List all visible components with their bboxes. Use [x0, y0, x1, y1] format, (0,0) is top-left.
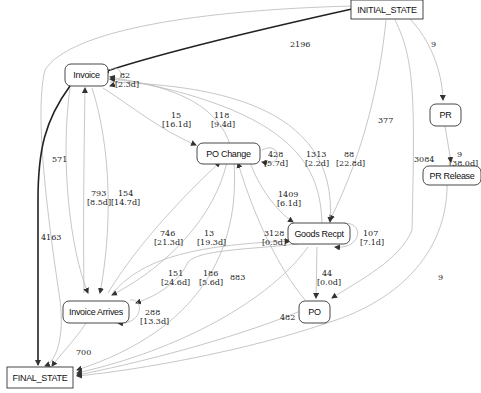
node-pr[interactable]: PR [430, 104, 461, 126]
label-883: 883 [230, 273, 245, 282]
node-invoice-arrives-label: Invoice Arrives [69, 307, 124, 317]
label-2196: 2196 [290, 40, 310, 49]
label-428-duration: [5.7d] [264, 159, 288, 168]
edge-invoice-final[interactable] [38, 86, 70, 365]
label-186-duration: [5.6d] [199, 278, 223, 287]
label-3128: 3128 [264, 229, 284, 238]
label-9-initial-pr: 9 [431, 40, 436, 49]
label-1313: 1313 [306, 150, 326, 159]
label-15-duration: [16.1d] [162, 120, 191, 129]
label-88-duration: [22.8d] [336, 159, 365, 168]
label-154: 154 [118, 189, 133, 198]
label-700: 700 [76, 348, 91, 357]
label-13-duration: [19.3d] [197, 238, 226, 247]
edge-goods-po-44[interactable] [316, 247, 317, 298]
label-88: 88 [344, 150, 354, 159]
node-po-label: PO [308, 307, 321, 317]
label-107: 107 [363, 229, 378, 238]
label-82-duration: [2.3d] [115, 80, 139, 89]
label-793-duration: [8.5d] [87, 198, 111, 207]
node-initial-state-label: INITIAL_STATE [357, 5, 417, 15]
edge-arrives-final-700[interactable] [52, 323, 86, 366]
label-118: 118 [214, 111, 229, 120]
label-118-duration: [9.4d] [211, 120, 235, 129]
label-746-duration: [21.3d] [154, 238, 183, 247]
label-4163: 4163 [41, 233, 61, 242]
label-186: 186 [203, 269, 218, 278]
label-1409-duration: [6.1d] [277, 199, 301, 208]
node-po-change[interactable]: PO Change [197, 143, 260, 164]
label-151-duration: [24.6d] [161, 278, 190, 287]
label-3084: 3084 [414, 155, 434, 164]
node-pr-label: PR [440, 110, 453, 120]
edge-initial-invoice[interactable] [104, 9, 352, 72]
node-goods-recpt[interactable]: Goods Recpt [288, 223, 350, 244]
edge-pr-prrelease[interactable] [445, 126, 451, 162]
node-pr-release[interactable]: PR Release [423, 166, 481, 185]
label-9-bottom: 9 [438, 273, 443, 282]
edge-invoice-pochange-15[interactable] [103, 88, 196, 145]
node-po-change-label: PO Change [206, 149, 251, 159]
label-377: 377 [378, 116, 393, 125]
label-13: 13 [204, 229, 214, 238]
label-428: 428 [268, 150, 283, 159]
node-initial-state[interactable]: INITIAL_STATE [351, 0, 423, 19]
label-1313-duration: [2.2d] [305, 159, 329, 168]
label-154-duration: [14.7d] [111, 198, 140, 207]
label-44-duration: [0.0d] [317, 278, 341, 287]
node-invoice[interactable]: Invoice [65, 64, 108, 86]
label-793: 793 [91, 189, 106, 198]
label-288: 288 [145, 308, 160, 317]
nodes: INITIAL_STATE Invoice PR PO Change PR Re… [7, 0, 481, 388]
edge-arrives-invoice-793[interactable] [84, 88, 85, 293]
label-107-duration: [7.1d] [360, 238, 384, 247]
node-invoice-label: Invoice [73, 70, 100, 80]
node-goods-recpt-label: Goods Recpt [294, 229, 344, 239]
label-482: 482 [280, 313, 295, 322]
node-final-state[interactable]: FINAL_STATE [7, 367, 73, 388]
label-82: 82 [120, 71, 130, 80]
edge-initial-pr[interactable] [410, 19, 443, 100]
label-3128-duration: [0.5d] [262, 238, 286, 247]
label-44: 44 [322, 269, 332, 278]
label-571: 571 [52, 155, 67, 164]
label-288-duration: [13.3d] [140, 317, 169, 326]
label-15: 15 [171, 111, 181, 120]
process-graph: 2196 9 377 3084 571 82 [2.3d] 15 [16.1d]… [0, 0, 481, 393]
node-final-state-label: FINAL_STATE [13, 373, 68, 383]
node-pr-release-label: PR Release [429, 171, 474, 181]
node-invoice-arrives[interactable]: Invoice Arrives [63, 301, 129, 323]
node-po[interactable]: PO [299, 301, 330, 323]
label-9-pr-release: 9 [457, 150, 462, 159]
label-1409: 1409 [278, 190, 298, 199]
label-746: 746 [160, 229, 175, 238]
label-151: 151 [168, 269, 183, 278]
